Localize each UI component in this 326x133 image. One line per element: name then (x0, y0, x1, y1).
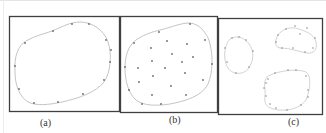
point (281, 47, 283, 49)
point (202, 79, 204, 81)
point (267, 78, 269, 80)
point (314, 37, 316, 39)
caption-b: (b) (169, 114, 181, 125)
point (224, 47, 226, 49)
point (164, 67, 166, 69)
point (263, 87, 265, 89)
point (185, 94, 187, 96)
point (305, 75, 307, 77)
contour-points (224, 36, 254, 74)
point (141, 103, 143, 105)
contour (225, 37, 253, 74)
point (295, 69, 297, 71)
point (57, 101, 59, 103)
panel-frame (219, 19, 323, 115)
point (88, 23, 90, 25)
point (245, 39, 247, 41)
point (52, 30, 54, 32)
point (238, 36, 240, 38)
point (269, 103, 271, 105)
point (186, 43, 188, 45)
point (304, 51, 306, 53)
point (14, 65, 16, 67)
point (170, 85, 172, 87)
point (300, 104, 302, 106)
point (151, 60, 153, 62)
point (307, 96, 309, 98)
panel-c (219, 19, 323, 115)
panel-a (10, 17, 120, 112)
point (231, 37, 233, 39)
panel-frame (121, 17, 218, 113)
point (294, 25, 296, 27)
point (158, 31, 160, 33)
point (71, 23, 73, 25)
point (285, 28, 287, 30)
contour (15, 22, 110, 105)
point (306, 27, 308, 29)
figure (0, 0, 326, 133)
point (82, 93, 84, 95)
point (211, 63, 213, 65)
point (184, 72, 186, 74)
contour (125, 23, 212, 105)
point (103, 79, 105, 81)
point (137, 67, 139, 69)
caption-a: (a) (40, 117, 51, 128)
point (274, 72, 276, 74)
point (171, 53, 173, 55)
point (265, 82, 267, 84)
point (152, 75, 154, 77)
point (138, 81, 140, 83)
point (252, 50, 254, 52)
point (275, 107, 277, 109)
point (109, 61, 111, 63)
point (150, 47, 152, 49)
contour (276, 28, 317, 53)
point (292, 47, 294, 49)
point (312, 47, 314, 49)
caption-c: (c) (288, 116, 299, 127)
point (248, 66, 250, 68)
panel-frame (10, 17, 120, 112)
point (189, 23, 191, 25)
point (33, 102, 35, 104)
point (110, 49, 112, 51)
point (105, 39, 107, 41)
point (275, 41, 277, 43)
contour (265, 70, 310, 110)
point (235, 72, 237, 74)
boundary-points (14, 23, 112, 104)
interior-points (137, 40, 194, 96)
point (166, 40, 168, 42)
point (204, 39, 206, 41)
boundary-points (124, 23, 213, 105)
point (277, 34, 279, 36)
contour-points (275, 25, 316, 53)
point (181, 61, 183, 63)
point (18, 88, 20, 90)
point (128, 89, 130, 91)
point (192, 56, 194, 58)
point (299, 33, 301, 35)
point (265, 95, 267, 97)
point (287, 69, 289, 71)
point (133, 42, 135, 44)
point (226, 61, 228, 63)
panel-b (121, 17, 218, 113)
point (151, 94, 153, 96)
point (286, 109, 288, 111)
point (24, 42, 26, 44)
point (160, 103, 162, 105)
point (307, 89, 309, 91)
point (124, 66, 126, 68)
